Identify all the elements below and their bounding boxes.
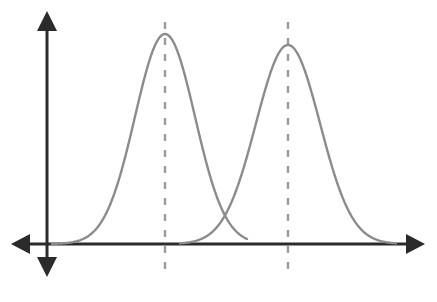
- axes-group: [11, 11, 425, 277]
- arrowhead-up-icon: [37, 11, 57, 31]
- arrowhead-right-icon: [406, 234, 425, 254]
- arrowhead-left-icon: [11, 234, 30, 254]
- distribution-curve-1: [52, 34, 247, 244]
- plot-canvas: [0, 0, 437, 302]
- arrowhead-down-icon: [37, 257, 57, 277]
- mean-lines-group: [165, 22, 288, 270]
- curves-group: [52, 34, 396, 244]
- bell-curve-diagram: [0, 0, 437, 302]
